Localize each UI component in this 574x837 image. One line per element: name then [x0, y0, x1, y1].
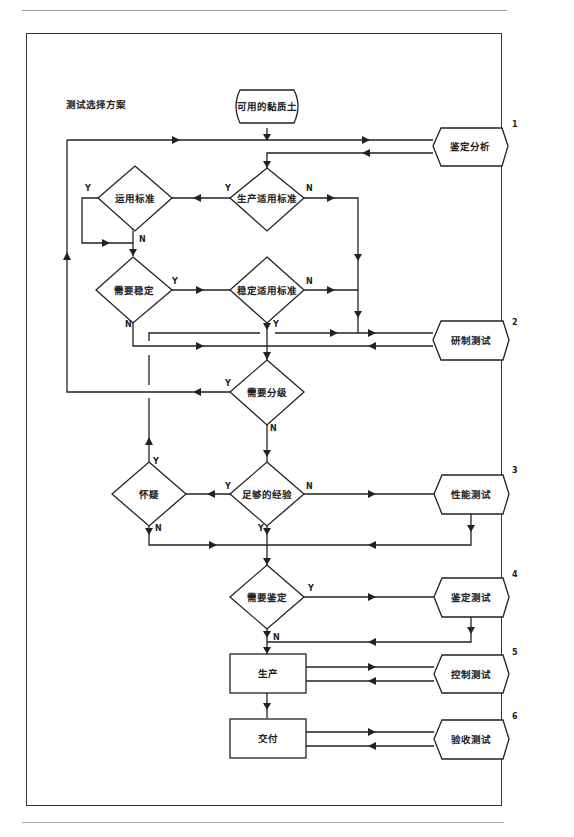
decision-need-stab: 需要稳定	[96, 257, 172, 323]
svg-text:Y: Y	[224, 482, 231, 491]
svg-text:需要分级: 需要分级	[247, 387, 287, 398]
flowchart: 测试选择方案	[0, 0, 574, 837]
svg-text:运用标准: 运用标准	[115, 193, 155, 204]
svg-text:需要稳定: 需要稳定	[114, 285, 154, 296]
diagram-title: 测试选择方案	[66, 99, 126, 110]
svg-text:N: N	[125, 320, 132, 329]
test-1: 鉴定分析 1	[433, 120, 518, 166]
svg-text:1: 1	[512, 120, 518, 129]
test-5: 控制测试 5	[434, 648, 518, 693]
svg-text:N: N	[155, 524, 162, 533]
decision-need-grade: 需要分级	[230, 360, 304, 425]
svg-text:N: N	[306, 277, 313, 286]
svg-text:Y: Y	[171, 277, 178, 286]
svg-text:Y: Y	[224, 184, 231, 193]
svg-text:Y: Y	[272, 320, 279, 329]
decision-need-ident: 需要鉴定	[230, 565, 304, 629]
test-2: 研制测试 2	[433, 318, 518, 360]
process-production: 生产	[230, 654, 306, 693]
svg-text:研制测试: 研制测试	[451, 335, 491, 346]
svg-text:N: N	[306, 184, 313, 193]
svg-text:N: N	[273, 633, 280, 642]
svg-text:Y: Y	[152, 457, 159, 466]
svg-text:鉴定测试: 鉴定测试	[450, 592, 491, 603]
test-6: 验收测试 6	[434, 712, 518, 759]
svg-text:生产适用标准: 生产适用标准	[237, 193, 297, 204]
decision-doubt: 怀疑	[112, 462, 186, 526]
decision-stab-std: 稳定适用标准	[230, 257, 304, 323]
svg-text:性能测试: 性能测试	[451, 489, 491, 500]
svg-text:需要鉴定: 需要鉴定	[247, 592, 287, 603]
svg-text:稳定适用标准: 稳定适用标准	[237, 285, 297, 296]
svg-text:3: 3	[512, 466, 518, 475]
svg-text:Y: Y	[84, 184, 91, 193]
svg-text:生产: 生产	[258, 668, 278, 679]
start-terminal: 可用的黏质土	[236, 90, 298, 123]
svg-text:6: 6	[512, 712, 518, 721]
svg-text:怀疑: 怀疑	[139, 489, 159, 500]
svg-text:鉴定分析: 鉴定分析	[449, 141, 490, 152]
svg-text:N: N	[270, 424, 277, 433]
svg-text:5: 5	[512, 648, 518, 657]
svg-text:Y: Y	[224, 379, 231, 388]
decision-use-std: 运用标准	[98, 166, 172, 231]
svg-text:Y: Y	[307, 584, 314, 593]
decision-prod-std: 生产适用标准	[230, 168, 304, 231]
decision-enough-exp: 足够的经验	[230, 462, 304, 526]
process-delivery: 交付	[230, 719, 306, 758]
svg-text:足够的经验: 足够的经验	[242, 489, 292, 500]
test-3: 性能测试 3	[434, 466, 518, 514]
svg-text:N: N	[139, 235, 146, 244]
svg-text:可用的黏质土: 可用的黏质土	[237, 101, 297, 112]
test-4: 鉴定测试 4	[434, 570, 518, 617]
svg-text:N: N	[306, 482, 313, 491]
svg-text:交付: 交付	[258, 733, 278, 744]
svg-text:Y: Y	[257, 524, 264, 533]
svg-text:验收测试: 验收测试	[451, 734, 491, 745]
svg-text:2: 2	[512, 318, 518, 327]
svg-text:4: 4	[512, 570, 518, 579]
svg-text:控制测试: 控制测试	[451, 669, 491, 680]
